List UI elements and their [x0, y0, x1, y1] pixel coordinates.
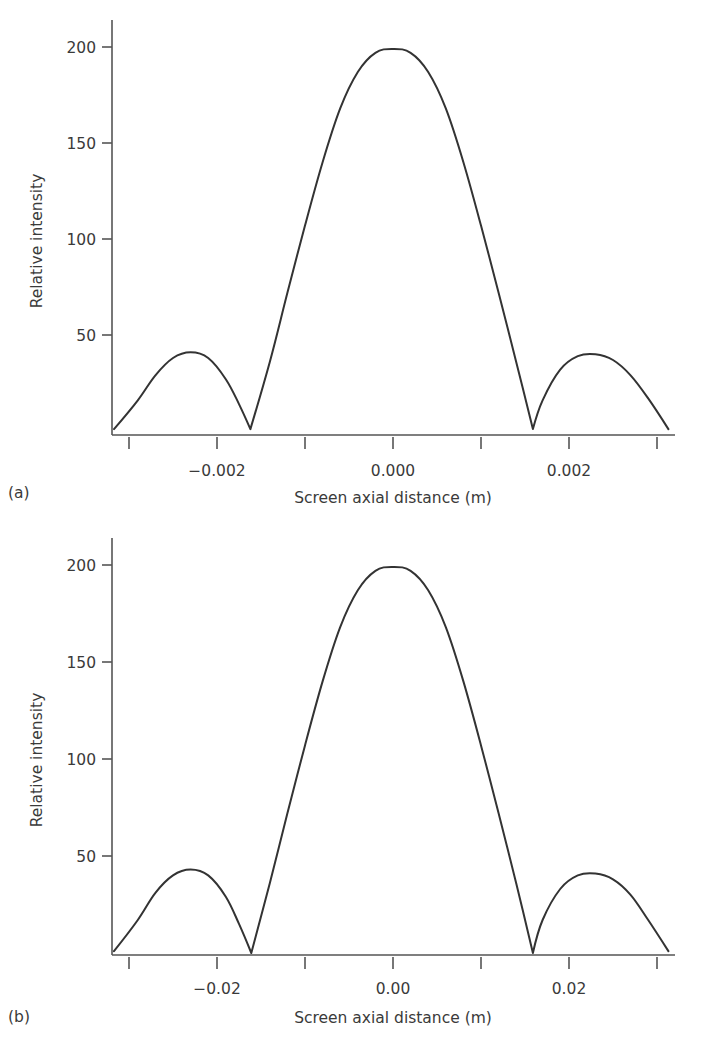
y-tick-label: 50 [76, 327, 96, 345]
x-axis-title: Screen axial distance (m) [294, 1009, 492, 1027]
plot-area-a: 50100150200−0.0020.0000.002Screen axial … [0, 0, 701, 520]
intensity-curve [114, 49, 668, 429]
plot-area-b: 50100150200−0.020.000.02Screen axial dis… [0, 520, 701, 1048]
x-tick-label: −0.002 [188, 462, 245, 480]
x-tick-label: −0.02 [193, 980, 241, 998]
y-tick-label: 200 [66, 557, 96, 575]
panel-label-a: (a) [8, 484, 30, 502]
y-tick-label: 200 [66, 39, 96, 57]
y-tick-label: 150 [66, 135, 96, 153]
x-tick-label: 0.02 [552, 980, 587, 998]
y-tick-label: 100 [66, 231, 96, 249]
y-axis-title: Relative intensity [28, 174, 46, 309]
x-tick-label: 0.00 [376, 980, 411, 998]
chart-panel-a: 50100150200−0.0020.0000.002Screen axial … [0, 0, 701, 520]
x-tick-label: 0.000 [371, 462, 415, 480]
chart-panel-b: 50100150200−0.020.000.02Screen axial dis… [0, 520, 701, 1048]
panel-label-b: (b) [8, 1008, 30, 1026]
y-tick-label: 50 [76, 848, 96, 866]
x-tick-label: 0.002 [547, 462, 591, 480]
intensity-curve [114, 567, 668, 953]
y-tick-label: 150 [66, 654, 96, 672]
y-tick-label: 100 [66, 751, 96, 769]
y-axis-title: Relative intensity [28, 693, 46, 828]
x-axis-title: Screen axial distance (m) [294, 489, 492, 507]
